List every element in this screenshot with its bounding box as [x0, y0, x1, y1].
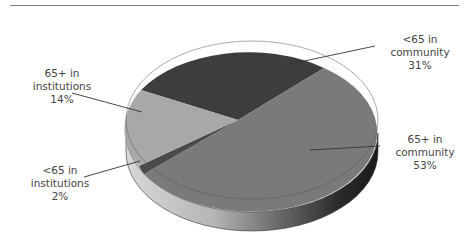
label-line1: 65+ in	[22, 67, 102, 80]
label-line1: <65 in	[380, 33, 460, 46]
label-pct: 31%	[380, 59, 460, 72]
label-line2: community	[380, 46, 460, 59]
label-line1: 65+ in	[385, 133, 465, 146]
label-pct: 53%	[385, 159, 465, 172]
label-lt65-institutions: <65 in institutions 2%	[20, 164, 100, 203]
label-line1: <65 in	[20, 164, 100, 177]
label-line2: community	[385, 146, 465, 159]
label-ge65-community: 65+ in community 53%	[385, 133, 465, 172]
label-pct: 14%	[22, 93, 102, 106]
leader-lt65-community	[290, 46, 375, 64]
label-line2: institutions	[22, 80, 102, 93]
label-ge65-institutions: 65+ in institutions 14%	[22, 67, 102, 106]
label-pct: 2%	[20, 190, 100, 203]
label-lt65-community: <65 in community 31%	[380, 33, 460, 72]
label-line2: institutions	[20, 177, 100, 190]
